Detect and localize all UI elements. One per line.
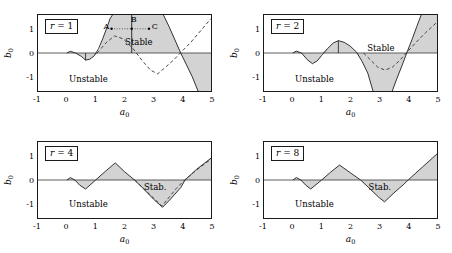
xtick-label: 1 [319,95,324,104]
xtick-label: 0 [64,222,69,231]
parameter-label-r1: r = 1 [45,19,78,34]
parameter-equals: = [280,21,293,31]
xtick-label: 2 [348,222,353,231]
xtick-label: 5 [209,222,214,231]
stable-region-upper_1-r4 [96,163,135,180]
xtick-label: 2 [122,222,127,231]
parameter-value: 1 [68,21,74,31]
stable-region-label-r8: Stab. [369,182,391,192]
parameter-label-r2: r = 2 [271,19,304,34]
ytick-label: 0 [19,176,34,185]
x-axis-label: a0 [346,234,356,246]
stable-region-label-r4: Stab. [144,182,166,192]
xtick-label: 3 [151,95,156,104]
parameter-equals: = [54,21,67,31]
ytick-label: 1 [19,151,34,160]
xtick-label: 3 [377,95,382,104]
ytick-label: 1 [245,151,260,160]
unstable-region-label-r4: Unstable [69,199,108,209]
y-axis-label: b0 [3,48,15,58]
xtick-label: 1 [319,222,324,231]
xtick-label: 2 [348,95,353,104]
data-point-c-r1 [148,28,150,30]
subplot-r2: r = 2StableUnstable-101234510-1a0b0 [226,0,452,127]
x-axis-label: a0 [346,107,356,119]
xtick-label: 5 [435,95,440,104]
unstable-region-label-r8: Unstable [295,199,334,209]
unstable-region-label-r2: Unstable [295,74,334,84]
xtick-label: 1 [93,222,98,231]
stable-region-label-r1: Stable [125,37,153,47]
point-label-b-r1: B [131,15,137,24]
xtick-label: 3 [377,222,382,231]
parameter-equals: = [280,148,293,158]
stability-figure: ABCr = 1StableUnstable-101234510-1a0b0r … [0,0,452,253]
x-axis-label: a0 [120,107,130,119]
xtick-label: -1 [33,222,41,231]
point-label-c-r1: C [152,22,158,31]
unstable-region-label-r1: Unstable [69,74,108,84]
xtick-label: 0 [64,95,69,104]
xtick-label: 0 [290,222,295,231]
point-label-a-r1: A [103,22,109,31]
parameter-label-r8: r = 8 [271,146,304,161]
parameter-value: 2 [294,21,300,31]
parameter-value: 8 [294,148,300,158]
data-point-b-r1 [131,28,133,30]
subplot-r1: ABCr = 1StableUnstable-101234510-1a0b0 [0,0,226,127]
xtick-label: 5 [435,222,440,231]
y-axis-label: b0 [3,175,15,185]
xtick-label: 4 [180,95,185,104]
stable-region-upper_1-r8 [322,165,361,180]
subplot-r4: r = 4Stab.Unstable-101234510-1a0b0 [0,127,226,253]
y-axis-label: b0 [229,175,241,185]
parameter-equals: = [54,148,67,158]
parameter-value: 4 [68,148,74,158]
ytick-label: -1 [19,73,34,82]
ytick-label: -1 [19,200,34,209]
ytick-label: 0 [245,49,260,58]
xtick-label: 5 [209,95,214,104]
xtick-label: 4 [406,95,411,104]
x-axis-label: a0 [120,234,130,246]
stable-region-upper-r1 [99,15,181,53]
subplot-r8: r = 8Stab.Unstable-101234510-1a0b0 [226,127,452,253]
xtick-label: 0 [290,95,295,104]
parameter-label-r4: r = 4 [45,146,78,161]
xtick-label: -1 [259,95,267,104]
stable-region-upper_right-r2 [407,15,437,53]
ytick-label: -1 [245,73,260,82]
xtick-label: 3 [151,222,156,231]
ytick-label: 1 [19,24,34,33]
ytick-label: 1 [245,24,260,33]
xtick-label: -1 [259,222,267,231]
xtick-label: -1 [33,95,41,104]
ytick-label: -1 [245,200,260,209]
xtick-label: 1 [93,95,98,104]
y-axis-label: b0 [229,48,241,58]
ytick-label: 0 [245,176,260,185]
xtick-label: 4 [180,222,185,231]
stable-region-label-r2: Stable [367,43,395,53]
ytick-label: 0 [19,49,34,58]
data-point-a-r1 [110,28,112,30]
xtick-label: 2 [122,95,127,104]
xtick-label: 4 [406,222,411,231]
